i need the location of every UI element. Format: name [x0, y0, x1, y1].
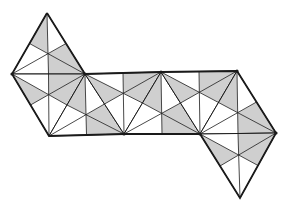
vertex-dot — [83, 72, 86, 75]
vertex-dot — [10, 72, 13, 75]
vertex-dot — [122, 132, 125, 135]
vertex-dot — [274, 131, 277, 134]
vertex-dot — [235, 69, 238, 72]
vertex-dot — [159, 70, 162, 73]
triangle-top-left — [12, 13, 85, 74]
polyhedron-net-diagram — [0, 0, 286, 212]
triangle-bottom-right — [200, 133, 276, 198]
vertex-dot — [198, 132, 201, 135]
